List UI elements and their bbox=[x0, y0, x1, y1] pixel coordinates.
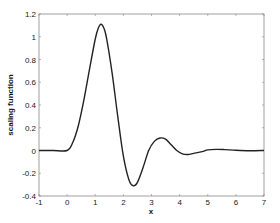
y-tick-label: 1.2 bbox=[25, 10, 37, 19]
y-tick-label: 0.4 bbox=[25, 101, 37, 110]
x-tick-label: 7 bbox=[262, 198, 267, 207]
y-tick-label: 0.6 bbox=[25, 78, 37, 87]
x-tick-label: 4 bbox=[177, 198, 182, 207]
x-axis-label: x bbox=[149, 207, 154, 216]
y-tick-label: 0.8 bbox=[25, 56, 37, 65]
x-tick-label: 6 bbox=[234, 198, 239, 207]
y-tick-label: -0.2 bbox=[22, 169, 36, 178]
y-tick-label: 0.2 bbox=[25, 124, 37, 133]
x-tick-label: 2 bbox=[121, 198, 126, 207]
y-tick-label: 1 bbox=[32, 33, 37, 42]
y-tick-label: 0 bbox=[32, 147, 37, 156]
x-tick-label: 0 bbox=[65, 198, 70, 207]
x-tick-label: 1 bbox=[93, 198, 98, 207]
y-tick-label: -0.4 bbox=[22, 192, 36, 201]
x-tick-label: 5 bbox=[206, 198, 211, 207]
y-axis-label: scaling function bbox=[6, 74, 15, 135]
x-tick-label: -1 bbox=[35, 198, 43, 207]
y-tick-labels: -0.4-0.200.20.40.60.811.2 bbox=[22, 10, 36, 201]
chart: -101234567 -0.4-0.200.20.40.60.811.2 x s… bbox=[0, 0, 280, 223]
x-tick-label: 3 bbox=[149, 198, 154, 207]
plot-area: -101234567 -0.4-0.200.20.40.60.811.2 bbox=[22, 10, 267, 207]
x-tick-labels: -101234567 bbox=[35, 198, 266, 207]
axes-box bbox=[39, 14, 264, 196]
